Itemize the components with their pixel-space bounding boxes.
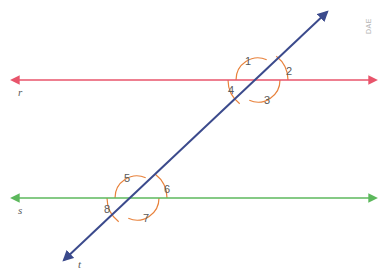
angle-label-3: 3 (264, 94, 270, 106)
angle-label-5: 5 (124, 172, 130, 184)
angle-label-8: 8 (104, 203, 110, 215)
angle-arc-1 (236, 58, 267, 80)
geometry-canvas: r s t 1 2 3 4 5 6 7 8 DAE (0, 0, 387, 278)
angle-label-4: 4 (228, 84, 234, 96)
line-t (64, 12, 327, 260)
angle-label-6: 6 (164, 183, 170, 195)
line-label-r: r (18, 86, 23, 98)
angle-label-7: 7 (143, 212, 149, 224)
angle-label-2: 2 (286, 65, 292, 77)
line-label-t: t (78, 258, 82, 270)
line-label-s: s (18, 204, 22, 216)
watermark-label: DAE (365, 18, 372, 34)
geometry-diagram: r s t 1 2 3 4 5 6 7 8 DAE (0, 0, 387, 278)
angle-label-1: 1 (245, 55, 251, 67)
